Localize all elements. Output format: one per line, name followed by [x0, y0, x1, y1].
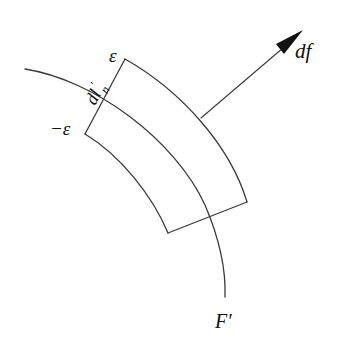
strip-inner-edge	[85, 134, 168, 233]
normal-vector-df	[201, 42, 290, 118]
curve-f-prime	[25, 69, 225, 297]
strip-outer-edge	[125, 59, 247, 202]
label-df: df	[295, 39, 315, 63]
strip-bottom-end	[168, 202, 247, 233]
label-dl-n: dl ′ n	[79, 78, 112, 110]
label-epsilon-bottom: −ε	[50, 118, 71, 139]
label-curve-f-prime: F′	[214, 310, 232, 332]
label-epsilon-top: ε	[109, 45, 117, 66]
strip-diagram: ε −ε dl ′ n df F′	[0, 0, 338, 339]
